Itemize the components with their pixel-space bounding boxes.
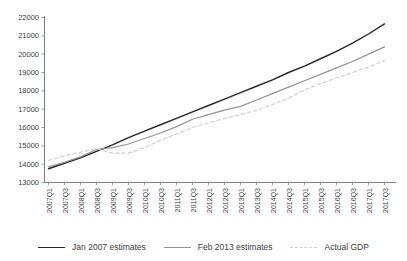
x-axis-tick-label: 2009Q1 <box>110 188 118 213</box>
y-axis-tick-label: 17000 <box>18 105 39 114</box>
legend-label-actual-gdp: Actual GDP <box>324 242 368 252</box>
x-axis-tick-label: 2016Q1 <box>334 188 342 213</box>
legend-swatch-dashed-light-gray-line <box>290 247 317 248</box>
legend-swatch-solid-black-line <box>38 247 65 248</box>
x-axis-tick-label: 2014Q3 <box>286 188 294 213</box>
x-axis-tick-label: 2013Q1 <box>238 188 246 213</box>
gdp-forecast-chart: 1300014000150001600017000180001900020000… <box>0 0 407 261</box>
x-axis-tick-label: 2015Q1 <box>302 188 310 213</box>
x-axis-tick-label: 2012Q3 <box>222 188 230 213</box>
legend-label-jan-2007-estimates: Jan 2007 estimates <box>72 242 146 252</box>
x-axis-tick-label: 2015Q3 <box>318 188 326 213</box>
x-axis-tick-label: 2011Q3 <box>190 188 198 212</box>
gdp-line-chart-plot: 1300014000150001600017000180001900020000… <box>0 0 407 234</box>
x-axis-tick-label: 2010Q1 <box>142 188 150 213</box>
x-axis-tick-label: 2012Q1 <box>206 188 214 213</box>
chart-legend: Jan 2007 estimates Feb 2013 estimates Ac… <box>0 234 407 260</box>
x-axis-tick-label: 2016Q3 <box>350 188 358 213</box>
y-axis-tick-label: 18000 <box>18 86 39 95</box>
legend-item-feb-2013-estimates: Feb 2013 estimates <box>164 242 273 252</box>
legend-item-actual-gdp: Actual GDP <box>290 242 368 252</box>
x-axis-tick-label: 2009Q3 <box>126 188 134 213</box>
y-axis-tick-label: 15000 <box>18 141 39 150</box>
series-line-jan-2007-estimates <box>49 24 385 169</box>
x-axis-tick-label: 2007Q3 <box>62 188 70 213</box>
x-axis-tick-label: 2008Q3 <box>94 188 102 213</box>
y-axis-tick-label: 20000 <box>18 50 39 59</box>
series-line-actual-gdp <box>49 61 385 161</box>
x-axis-tick-label: 2017Q3 <box>382 188 390 213</box>
legend-item-jan-2007-estimates: Jan 2007 estimates <box>38 242 146 252</box>
x-axis-tick-label: 2008Q1 <box>78 188 86 213</box>
legend-swatch-solid-gray-line <box>164 247 191 248</box>
x-axis-tick-label: 2010Q3 <box>158 188 166 213</box>
y-axis-tick-label: 13000 <box>18 178 39 187</box>
x-axis-tick-label: 2013Q3 <box>254 188 262 213</box>
y-axis-tick-label: 22000 <box>18 13 39 22</box>
x-axis-tick-label: 2007Q1 <box>46 188 54 213</box>
x-axis-tick-label: 2011Q1 <box>174 188 182 212</box>
y-axis-tick-label: 21000 <box>18 31 39 40</box>
y-axis-tick-label: 14000 <box>18 160 39 169</box>
y-axis-tick-label: 19000 <box>18 68 39 77</box>
legend-label-feb-2013-estimates: Feb 2013 estimates <box>198 242 273 252</box>
x-axis-tick-label: 2014Q1 <box>270 188 278 213</box>
x-axis-tick-label: 2017Q1 <box>366 188 374 213</box>
y-axis-tick-label: 16000 <box>18 123 39 132</box>
